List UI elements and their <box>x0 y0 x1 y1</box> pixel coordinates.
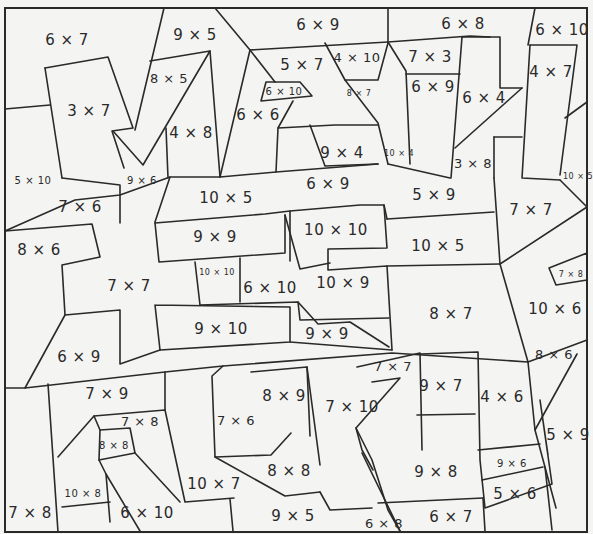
region-label: 3 × 7 <box>67 104 111 119</box>
region-label: 5 × 10 <box>15 176 52 186</box>
region-label: 8 × 8 <box>267 464 311 479</box>
region-label: 8 × 8 <box>99 441 129 451</box>
region-label: 7 × 7 <box>107 279 151 294</box>
region-label: 6 × 9 <box>57 350 101 365</box>
region-label: 6 × 9 <box>411 80 455 95</box>
region-label: 8 × 9 <box>262 389 306 404</box>
region-label: 10 × 5 <box>199 191 253 206</box>
region-label: 6 × 8 <box>441 17 485 32</box>
region-label: 6 × 10 <box>266 87 303 97</box>
region-label: 10 × 5 <box>411 239 465 254</box>
region-label: 10 × 5 <box>563 173 593 181</box>
region-label: 8 × 7 <box>347 90 371 98</box>
region-label: 7 × 9 <box>85 387 129 402</box>
region-label: 6 × 10 <box>535 23 589 38</box>
region-label: 9 × 9 <box>193 230 237 245</box>
region-label: 9 × 5 <box>173 28 217 43</box>
region-label: 7 × 10 <box>325 400 379 415</box>
region-label: 10 × 9 <box>316 276 370 291</box>
region-label: 7 × 6 <box>58 200 102 215</box>
region-label: 6 × 9 <box>306 177 350 192</box>
region-label: 4 × 6 <box>480 390 524 405</box>
region-label: 4 × 7 <box>529 65 573 80</box>
region-label: 5 × 6 <box>493 487 537 502</box>
region-label: 6 × 9 <box>296 18 340 33</box>
region-label: 6 × 7 <box>45 33 89 48</box>
region-label: 5 × 9 <box>546 428 590 443</box>
region-label: 7 × 8 <box>8 506 52 521</box>
region-label: 9 × 8 <box>414 465 458 480</box>
region-label: 10 × 7 <box>187 477 241 492</box>
region-label: 9 × 4 <box>320 146 364 161</box>
region-label: 8 × 7 <box>429 307 473 322</box>
region-label: 4 × 10 <box>334 51 381 64</box>
region-label: 9 × 6 <box>497 459 527 469</box>
region-label: 6 × 6 <box>236 108 280 123</box>
region-label: 7 × 8 <box>559 271 583 279</box>
region-label: 7 × 3 <box>408 50 452 65</box>
region-label: 10 × 10 <box>199 269 235 277</box>
region-label: 8 × 5 <box>150 72 188 85</box>
region-label: 5 × 9 <box>412 188 456 203</box>
region-label: 9 × 9 <box>305 327 349 342</box>
region-label: 10 × 4 <box>384 150 414 158</box>
region-label: 7 × 7 <box>374 360 412 373</box>
region-label: 8 × 6 <box>535 348 573 361</box>
region-label: 7 × 7 <box>509 203 553 218</box>
region-label: 10 × 8 <box>65 489 102 499</box>
region-label: 5 × 7 <box>280 58 324 73</box>
region-label: 9 × 6 <box>127 176 157 186</box>
region-label: 9 × 10 <box>194 322 248 337</box>
region-label: 9 × 5 <box>271 509 315 524</box>
region-label: 7 × 8 <box>121 415 159 428</box>
region-label: 6 × 10 <box>120 506 174 521</box>
region-label: 6 × 10 <box>243 281 297 296</box>
region-label: 10 × 6 <box>528 302 582 317</box>
region-label: 6 × 8 <box>365 517 403 530</box>
region-label: 8 × 6 <box>17 243 61 258</box>
region-label: 6 × 4 <box>462 91 506 106</box>
region-label: 9 × 7 <box>419 379 463 394</box>
region-label: 7 × 6 <box>217 414 255 427</box>
region-label: 4 × 8 <box>169 126 213 141</box>
region-label: 10 × 10 <box>304 223 368 238</box>
region-label: 6 × 7 <box>429 510 473 525</box>
region-label: 3 × 8 <box>454 157 492 170</box>
